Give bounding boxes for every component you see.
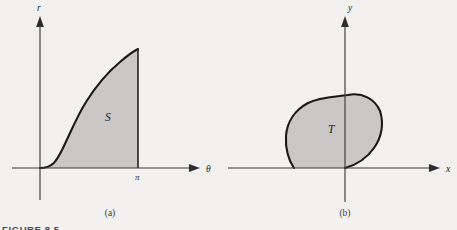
r-axis-arrowhead-icon [36, 16, 44, 27]
panel-b-xy-plot: y x T (b) [210, 0, 457, 230]
r-axis-label: r [37, 3, 41, 13]
panel-b-caption: (b) [339, 208, 350, 219]
panel-a-theta-r-plot: r θ π S (a) [0, 0, 230, 230]
region-s-fill [40, 49, 138, 168]
y-axis-arrowhead-icon [341, 16, 349, 27]
y-axis-label: y [347, 3, 353, 13]
figure-caption: FIGURE 8.5 [2, 225, 60, 230]
region-label-s: S [105, 111, 111, 123]
theta-axis-arrowhead-icon [189, 164, 200, 172]
x-tick-label-pi: π [135, 172, 140, 182]
x-axis-arrowhead-icon [429, 164, 440, 172]
x-axis-label: x [445, 164, 451, 174]
figure-container: r θ π S (a) y x T (b) FIGURE 8.5 [0, 0, 457, 230]
panel-a-caption: (a) [105, 208, 116, 219]
